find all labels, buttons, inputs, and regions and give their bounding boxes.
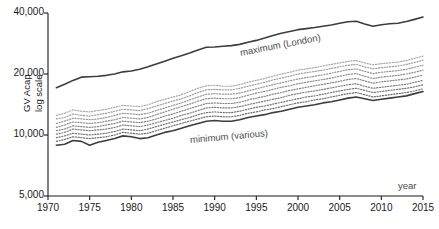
y-axis-tick-label: 10,000	[0, 128, 44, 139]
x-axis-tick-label: 1990	[195, 202, 235, 213]
x-axis-tick-label: 1995	[236, 202, 276, 213]
y-axis-title-line2: log scale	[34, 75, 45, 113]
x-axis-tick-label: 1975	[70, 202, 110, 213]
x-axis-tick-label: 2000	[278, 202, 318, 213]
series-annotation: year	[398, 180, 416, 191]
data-line	[56, 60, 423, 119]
x-axis-tick-label: 1980	[111, 202, 151, 213]
data-series-group	[56, 17, 423, 145]
y-axis-tick-label: 40,000	[0, 6, 44, 17]
x-axis-tick-label: 2010	[361, 202, 401, 213]
x-axis-tick-label: 2005	[320, 202, 360, 213]
data-line	[56, 75, 423, 131]
x-axis-tick-label: 1985	[153, 202, 193, 213]
y-axis-tick-label: 20,000	[0, 67, 44, 78]
y-axis-ticks	[44, 13, 48, 196]
y-axis-tick-label: 5,000	[0, 189, 44, 200]
x-axis-tick-label: 2015	[403, 202, 439, 213]
x-axis-ticks	[48, 196, 423, 200]
x-axis-tick-label: 1970	[28, 202, 68, 213]
axes	[48, 13, 423, 196]
y-axis-title-line1: GV Acap	[22, 75, 33, 113]
